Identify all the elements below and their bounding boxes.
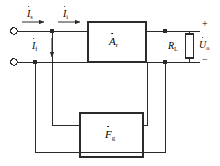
label-input-current: Ii (63, 9, 68, 19)
label-amplifier-gain-symbol: A (109, 36, 116, 47)
label-feedback-current: If (32, 41, 37, 51)
label-load-resistor: RL (168, 41, 178, 51)
label-source-current: Is (27, 9, 33, 19)
label-polarity-positive: + (202, 19, 208, 29)
label-input-current-subscript: i (66, 13, 68, 20)
label-feedback-current-subscript: f (35, 45, 37, 52)
circuit-diagram: Is Ii If Ar Fg RL Uo + − (0, 0, 220, 166)
label-load-resistor-subscript: L (174, 45, 178, 52)
label-amplifier-gain: Ar (109, 36, 118, 47)
label-feedback-factor-symbol: F (105, 129, 112, 140)
label-feedback-factor: Fg (105, 129, 115, 140)
label-output-voltage: Uo (199, 40, 209, 50)
label-source-current-subscript: s (30, 13, 32, 20)
label-polarity-negative: − (202, 55, 208, 65)
label-output-voltage-subscript: o (206, 44, 209, 51)
current-arrows (0, 0, 220, 166)
label-feedback-factor-subscript: g (112, 134, 115, 141)
label-amplifier-gain-subscript: r (116, 41, 118, 48)
